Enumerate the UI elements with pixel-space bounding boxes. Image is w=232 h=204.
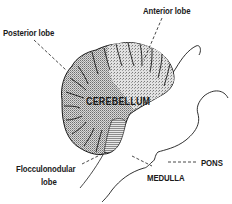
label-anterior-lobe: Anterior lobe — [143, 5, 190, 16]
label-flocculonodular-lobe: lobe — [41, 176, 57, 187]
cerebellum-diagram: Anterior lobe Posterior lobe CEREBELLUM … — [0, 0, 232, 204]
label-medulla: MEDULLA — [147, 172, 185, 183]
flocculus-stem-line — [80, 153, 104, 188]
label-posterior-lobe: Posterior lobe — [3, 27, 54, 38]
label-cerebellum: CEREBELLUM — [86, 95, 150, 107]
medulla-outline — [102, 168, 144, 202]
leader-posterior-lobe — [34, 40, 66, 70]
label-pons: PONS — [201, 157, 223, 168]
label-flocculonodular: Flocculonodular — [16, 163, 75, 174]
